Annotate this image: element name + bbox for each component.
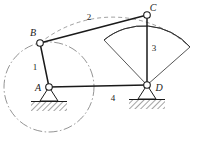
link-bars-layer [40,15,147,87]
joint-a-pivot[interactable] [46,84,53,91]
joint-label-a: A [34,82,42,93]
link-label-4: 4 [111,93,116,103]
linkage-diagram: A B C D 1 2 3 4 [0,0,203,141]
joint-label-d: D [154,82,163,93]
link-label-3: 3 [152,43,157,53]
ground-hatch-d [129,100,165,109]
link-2-bar [40,15,147,43]
joint-label-b: B [30,27,36,38]
link-4-bar [49,85,147,87]
link-1-bar [40,43,49,87]
joint-b-pivot[interactable] [37,40,44,47]
coupler-point-arc [40,17,190,47]
joint-label-c: C [150,2,157,13]
figure-canvas: A B C D 1 2 3 4 [0,0,203,141]
link-label-1: 1 [33,62,38,72]
link-label-2: 2 [87,12,92,22]
ground-hatch-a [31,102,67,111]
joints-layer [37,12,151,91]
joint-d-pivot[interactable] [144,82,151,89]
